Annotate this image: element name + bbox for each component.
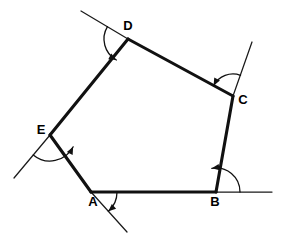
pentagon-diagram-canvas: ABCDE: [0, 0, 282, 250]
vertex-label-c: C: [238, 92, 248, 107]
vertex-label-a: A: [88, 194, 98, 209]
vertex-label-b: B: [210, 194, 219, 209]
vertex-label-e: E: [37, 122, 46, 137]
geometry-figure: ABCDE: [0, 0, 282, 250]
vertex-label-d: D: [123, 18, 132, 33]
